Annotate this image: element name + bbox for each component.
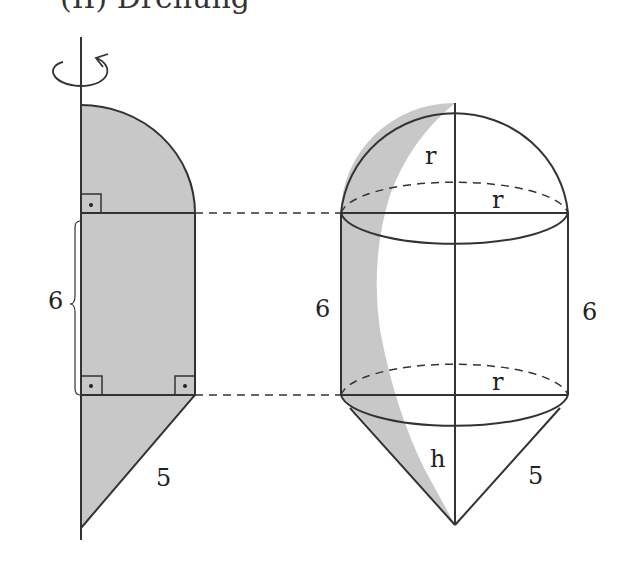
label-bottom-radius-r: r: [492, 368, 504, 396]
label-hypotenuse-5: 5: [156, 464, 171, 492]
label-cone-height-h: h: [430, 445, 445, 473]
diagram-canvas: (II) Drehung 6 5: [0, 0, 618, 571]
label-height-6: 6: [48, 287, 63, 315]
cross-section-shape: [81, 105, 195, 528]
right-figure: r r 6 6 r h 5: [315, 103, 597, 525]
label-cyl-height-right-6: 6: [582, 298, 597, 326]
label-cyl-height-left-6: 6: [315, 295, 330, 323]
label-cone-slant-5: 5: [528, 462, 543, 490]
label-top-radius-r: r: [492, 186, 504, 214]
label-hemisphere-r: r: [425, 142, 437, 170]
left-figure: 6 5: [48, 37, 341, 540]
height-brace: [70, 221, 80, 395]
header-text: (II) Drehung: [60, 0, 250, 15]
